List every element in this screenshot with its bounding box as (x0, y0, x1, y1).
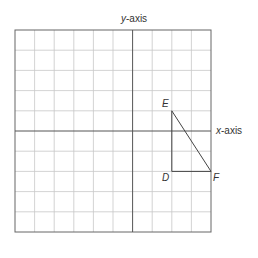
point-f-label: F (213, 173, 219, 183)
point-e-label: E (162, 99, 169, 109)
x-axis-label-text: -axis (221, 125, 242, 136)
y-axis-label: y-axis (121, 14, 147, 24)
x-axis-label: x-axis (216, 126, 242, 136)
point-d-label: D (162, 173, 169, 183)
y-axis-label-text: -axis (126, 13, 147, 24)
